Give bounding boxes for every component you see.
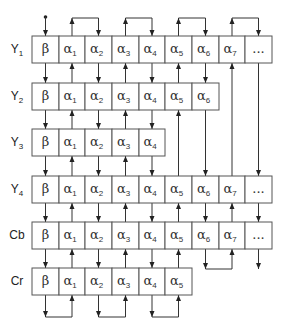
arrowhead-icon xyxy=(203,170,208,176)
row-label: Y4 xyxy=(11,182,24,198)
coefficient-cell: α2 xyxy=(85,83,112,110)
coefficient-cell: α5 xyxy=(165,176,192,203)
arrowhead-icon xyxy=(70,18,75,24)
coefficient-cell: ... xyxy=(245,176,272,203)
cell-label: β xyxy=(42,227,50,242)
cell-label: β xyxy=(42,134,50,149)
arrowhead-icon xyxy=(123,156,128,162)
coefficient-cell: β xyxy=(32,222,59,249)
arrowhead-icon xyxy=(96,262,101,268)
coefficient-cell: β xyxy=(32,268,59,295)
coefficient-cell: α2 xyxy=(85,176,112,203)
cell-label: ... xyxy=(252,41,264,56)
arrowhead-icon xyxy=(123,110,128,116)
row-label: Y2 xyxy=(11,89,24,105)
coefficient-cell: α1 xyxy=(59,222,85,249)
arrowhead-icon xyxy=(70,249,75,255)
coefficient-cell: β xyxy=(32,36,59,63)
arrowhead-icon xyxy=(96,216,101,222)
coefficient-cell: α4 xyxy=(139,83,165,110)
arrowhead-icon xyxy=(230,203,235,209)
coefficient-cell: α1 xyxy=(59,268,85,295)
arrowhead-icon xyxy=(70,156,75,162)
arrowhead-icon xyxy=(123,249,128,255)
arrowhead-icon xyxy=(150,216,155,222)
coefficient-cell: α7 xyxy=(219,36,245,63)
coefficient-cell: ... xyxy=(245,36,272,63)
coefficient-cell: α4 xyxy=(139,222,165,249)
coefficient-cell: α7 xyxy=(219,176,245,203)
arrowhead-icon xyxy=(43,216,48,222)
arrowhead-icon xyxy=(150,77,155,83)
coefficient-cell: α4 xyxy=(139,36,165,63)
cell-label: β xyxy=(42,41,50,56)
arrowhead-icon xyxy=(203,263,208,269)
arrowhead-icon xyxy=(203,216,208,222)
coefficient-cell: α4 xyxy=(139,268,165,295)
cell-label: β xyxy=(42,181,50,196)
coefficient-cell: α1 xyxy=(59,129,85,156)
row-label: Cb xyxy=(9,228,25,242)
arrowhead-icon xyxy=(150,170,155,176)
arrowhead-icon xyxy=(150,262,155,268)
row-y1: Y1βα1α2α3α4α5α6α7... xyxy=(11,36,272,63)
row-y3: Y3βα1α2α3α4 xyxy=(11,129,165,156)
arrowhead-icon xyxy=(43,311,48,317)
coefficient-cell: α6 xyxy=(192,222,219,249)
component-rows: Y1βα1α2α3α4α5α6α7...Y2βα1α2α3α4α5α6Y3βα1… xyxy=(9,36,272,295)
row-y2: Y2βα1α2α3α4α5α6 xyxy=(11,83,219,110)
arrowhead-icon xyxy=(96,77,101,83)
arrowhead-icon xyxy=(176,249,181,255)
coefficient-cell: α2 xyxy=(85,36,112,63)
row-label: Y3 xyxy=(11,135,24,151)
arrowhead-icon xyxy=(96,311,101,317)
coefficient-cell: α6 xyxy=(192,36,219,63)
arrowhead-icon xyxy=(70,110,75,116)
arrowhead-icon xyxy=(176,295,181,301)
coefficient-cell: α2 xyxy=(85,222,112,249)
row-label: Cr xyxy=(11,274,24,288)
coefficient-cell: α2 xyxy=(85,268,112,295)
row-y4: Y4βα1α2α3α4α5α6α7... xyxy=(11,176,272,203)
row-cr: Crβα1α2α3α4α5 xyxy=(11,268,192,295)
coefficient-cell: α5 xyxy=(165,83,192,110)
arrowhead-icon xyxy=(70,63,75,69)
arrowhead-icon xyxy=(43,123,48,129)
arrowhead-icon xyxy=(203,77,208,83)
cell-label: ... xyxy=(252,227,264,242)
arrowhead-icon xyxy=(150,30,155,36)
row-label: Y1 xyxy=(11,42,24,58)
arrowhead-icon xyxy=(150,311,155,317)
arrowhead-icon xyxy=(43,30,48,36)
coefficient-cell: α3 xyxy=(112,268,139,295)
arrowhead-icon xyxy=(230,18,235,24)
arrowhead-icon xyxy=(256,170,261,176)
scan-order-diagram: Y1βα1α2α3α4α5α6α7...Y2βα1α2α3α4α5α6Y3βα1… xyxy=(0,0,286,330)
arrowhead-icon xyxy=(96,123,101,129)
arrowhead-icon xyxy=(123,63,128,69)
coefficient-cell: α5 xyxy=(165,222,192,249)
coefficient-cell: α3 xyxy=(112,176,139,203)
arrowhead-icon xyxy=(256,216,261,222)
coefficient-cell: α6 xyxy=(192,176,219,203)
row-cb: Cbβα1α2α3α4α5α6α7... xyxy=(9,222,272,249)
coefficient-cell: α4 xyxy=(139,176,165,203)
arrowhead-icon xyxy=(176,18,181,24)
coefficient-cell: α1 xyxy=(59,36,85,63)
arrowhead-icon xyxy=(203,30,208,36)
arrowhead-icon xyxy=(150,123,155,129)
coefficient-cell: α2 xyxy=(85,129,112,156)
arrowhead-icon xyxy=(70,203,75,209)
arrowhead-icon xyxy=(256,263,261,269)
arrowhead-icon xyxy=(176,63,181,69)
arrowhead-icon xyxy=(123,203,128,209)
arrowhead-icon xyxy=(176,110,181,116)
coefficient-cell: β xyxy=(32,83,59,110)
coefficient-cell: α3 xyxy=(112,129,139,156)
cell-label: ... xyxy=(252,181,264,196)
arrowhead-icon xyxy=(96,30,101,36)
arrowhead-icon xyxy=(256,30,261,36)
arrowhead-icon xyxy=(123,18,128,24)
coefficient-cell: α6 xyxy=(192,83,219,110)
coefficient-cell: α7 xyxy=(219,222,245,249)
